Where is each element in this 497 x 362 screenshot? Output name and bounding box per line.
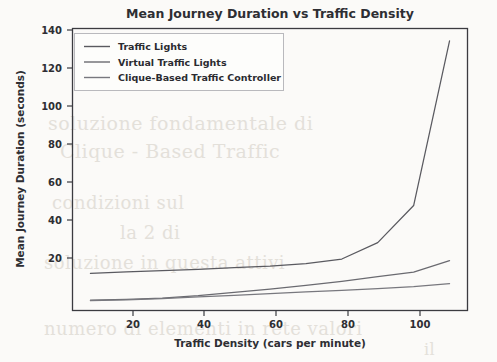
y-axis-label: Mean Journey Duration (seconds) bbox=[14, 70, 26, 268]
y-tick-label: 120 bbox=[41, 63, 62, 74]
x-tick-label: 60 bbox=[269, 319, 283, 330]
x-tick-label: 20 bbox=[126, 319, 140, 330]
chart-legend[interactable]: Traffic Lights Virtual Traffic Lights Cl… bbox=[75, 34, 284, 91]
series-line-clique-based-traffic-controller bbox=[90, 284, 449, 301]
y-tick-100: 100 bbox=[41, 101, 72, 112]
x-axis: 20 40 60 80 100 bbox=[126, 311, 430, 331]
x-tick-80: 80 bbox=[341, 311, 355, 331]
x-tick-20: 20 bbox=[126, 311, 140, 331]
x-tick-100: 100 bbox=[410, 311, 431, 331]
x-tick-40: 40 bbox=[197, 311, 211, 331]
x-tick-label: 80 bbox=[341, 319, 355, 330]
y-tick-20: 20 bbox=[48, 253, 72, 264]
x-tick-60: 60 bbox=[269, 311, 283, 331]
legend-label: Clique-Based Traffic Controller bbox=[118, 72, 281, 83]
chart-figure: soluzione fondamentale di Clique - Based… bbox=[0, 0, 497, 362]
y-tick-label: 140 bbox=[41, 25, 62, 36]
y-tick-label: 80 bbox=[48, 139, 62, 150]
x-tick-label: 40 bbox=[197, 319, 211, 330]
chart-title: Mean Journey Duration vs Traffic Density bbox=[126, 6, 414, 21]
y-axis: 140 120 100 80 60 40 bbox=[41, 25, 72, 264]
y-tick-label: 100 bbox=[41, 101, 62, 112]
y-tick-140: 140 bbox=[41, 25, 72, 36]
chart-canvas: Mean Journey Duration vs Traffic Density… bbox=[0, 0, 497, 362]
x-tick-label: 100 bbox=[410, 319, 431, 330]
y-tick-label: 40 bbox=[48, 215, 62, 226]
y-tick-80: 80 bbox=[48, 139, 72, 150]
y-tick-60: 60 bbox=[48, 177, 72, 188]
legend-label: Traffic Lights bbox=[118, 41, 187, 52]
y-tick-label: 60 bbox=[48, 177, 62, 188]
y-tick-120: 120 bbox=[41, 63, 72, 74]
legend-label: Virtual Traffic Lights bbox=[118, 57, 227, 68]
y-tick-label: 20 bbox=[48, 253, 62, 264]
y-tick-40: 40 bbox=[48, 215, 72, 226]
x-axis-label: Traffic Density (cars per minute) bbox=[174, 337, 366, 349]
